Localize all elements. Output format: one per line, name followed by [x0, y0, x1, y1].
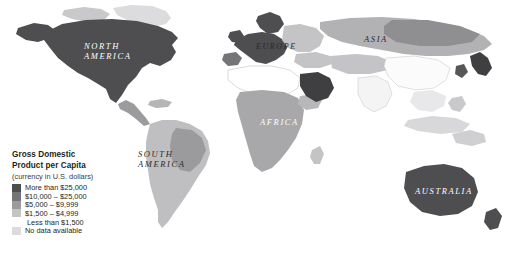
legend-swatch	[12, 227, 21, 235]
legend-title-line1: Gross Domestic	[12, 150, 132, 161]
legend-label: No data available	[25, 227, 82, 234]
legend-label: $5,000 – $9,999	[25, 201, 78, 208]
legend-items: More than $25,000$10,000 – $25,000$5,000…	[12, 184, 132, 236]
legend-row: More than $25,000	[12, 184, 132, 193]
legend-swatch	[12, 184, 21, 192]
legend-swatch	[12, 201, 21, 209]
legend-label: Less than $1,500	[27, 219, 84, 226]
legend-title-line2: Product per Capita	[12, 161, 132, 172]
map-legend: Gross Domestic Product per Capita (curre…	[12, 150, 132, 235]
world-map-graphic	[0, 0, 511, 279]
legend-label: More than $25,000	[25, 184, 87, 191]
legend-row: $1,500 – $4,999	[12, 209, 132, 218]
legend-label: $10,000 – $25,000	[25, 193, 87, 200]
legend-label: $1,500 – $4,999	[25, 210, 78, 217]
legend-row: No data available	[12, 227, 132, 236]
legend-swatch	[12, 192, 21, 200]
legend-title: Gross Domestic Product per Capita	[12, 150, 132, 171]
world-map-figure: NORTH AMERICA SOUTH AMERICA EUROPE AFRIC…	[0, 0, 511, 279]
legend-subtitle: (currency in U.S. dollars)	[12, 172, 132, 181]
